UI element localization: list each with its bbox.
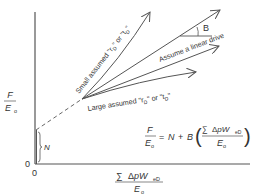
svg-text:=: =: [159, 132, 164, 142]
svg-text:ΔpW: ΔpW: [212, 125, 231, 134]
havlena-odeh-diagram: B Small assumed "rD" or "tD" Assume a li…: [0, 0, 254, 194]
dashed-extrapolation: [36, 99, 82, 130]
equation: F E o = N + B ( ∑ ΔpW eD E o ): [145, 125, 251, 149]
svg-text:B: B: [187, 132, 193, 142]
svg-text:): ): [244, 125, 251, 147]
svg-text:+: +: [178, 132, 183, 142]
angle-arc: [197, 27, 198, 36]
label-large-assumed: Large assumed "rD" or "tD": [87, 91, 172, 114]
svg-text:E: E: [134, 184, 141, 194]
svg-text:ΔpW: ΔpW: [128, 171, 149, 181]
svg-text:∑: ∑: [116, 171, 122, 181]
svg-text:N: N: [168, 132, 175, 142]
svg-text:E: E: [5, 103, 12, 113]
svg-text:o: o: [223, 143, 226, 149]
svg-text:F: F: [147, 125, 153, 135]
origin-x-label: 0: [32, 168, 37, 178]
intercept-label: N: [44, 143, 50, 152]
x-axis-label: ∑ ΔpW eD E o: [115, 171, 163, 194]
origin-y-label: 0: [25, 159, 30, 169]
svg-text:F: F: [7, 90, 13, 100]
svg-text:o: o: [14, 108, 17, 114]
svg-text:eD: eD: [235, 129, 242, 135]
angle-label: B: [203, 23, 209, 33]
diagram-svg: B Small assumed "rD" or "tD" Assume a li…: [0, 0, 254, 194]
svg-text:eD: eD: [153, 176, 160, 182]
y-axis-label: F E o: [4, 90, 17, 114]
svg-text:o: o: [141, 189, 144, 194]
intercept-brace-icon: [38, 132, 42, 162]
svg-text:o: o: [151, 143, 154, 149]
svg-text:∑: ∑: [202, 125, 208, 134]
svg-text:(: (: [195, 125, 202, 147]
